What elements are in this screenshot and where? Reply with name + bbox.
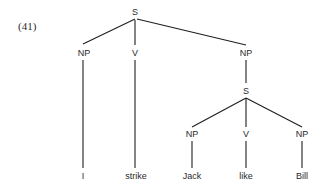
edge-s-np-bill <box>246 98 302 127</box>
node-s-embedded: S <box>243 87 249 96</box>
node-s-root: S <box>132 8 138 17</box>
node-np-object: NP <box>240 49 253 58</box>
node-v-main: V <box>132 49 138 58</box>
node-np-embedded-subject: NP <box>186 130 199 139</box>
leaf-i: I <box>82 172 85 181</box>
node-v-embedded: V <box>243 130 249 139</box>
edge-s-np-jack <box>192 98 246 127</box>
tree-edges <box>0 0 321 191</box>
node-np-subject: NP <box>78 49 91 58</box>
leaf-jack: Jack <box>183 172 202 181</box>
leaf-bill: Bill <box>296 172 308 181</box>
leaf-strike: strike <box>125 172 147 181</box>
edge-s-np-object <box>137 19 246 45</box>
edge-s-np-subject <box>83 19 135 44</box>
node-np-embedded-object: NP <box>296 130 309 139</box>
leaf-like: like <box>239 172 253 181</box>
